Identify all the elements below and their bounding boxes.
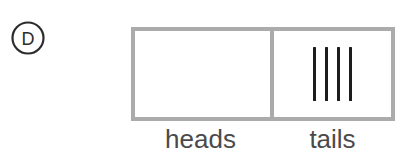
tally-mark bbox=[349, 47, 352, 101]
tally-cell-tails[interactable] bbox=[274, 31, 391, 117]
tally-marks-heads bbox=[135, 31, 270, 117]
tally-chart-figure: D heads tails bbox=[0, 0, 409, 158]
tally-marks-tails bbox=[274, 31, 391, 117]
tally-cell-heads[interactable] bbox=[135, 31, 274, 117]
tally-table bbox=[131, 27, 395, 121]
category-labels: heads tails bbox=[131, 122, 395, 156]
tally-mark bbox=[313, 47, 316, 101]
circled-letter-icon: D bbox=[10, 20, 46, 56]
category-label-tails: tails bbox=[270, 122, 395, 156]
question-letter: D bbox=[22, 29, 35, 49]
tally-mark bbox=[337, 47, 340, 101]
tally-mark bbox=[325, 47, 328, 101]
question-marker: D bbox=[10, 20, 46, 56]
category-label-heads: heads bbox=[131, 122, 270, 156]
